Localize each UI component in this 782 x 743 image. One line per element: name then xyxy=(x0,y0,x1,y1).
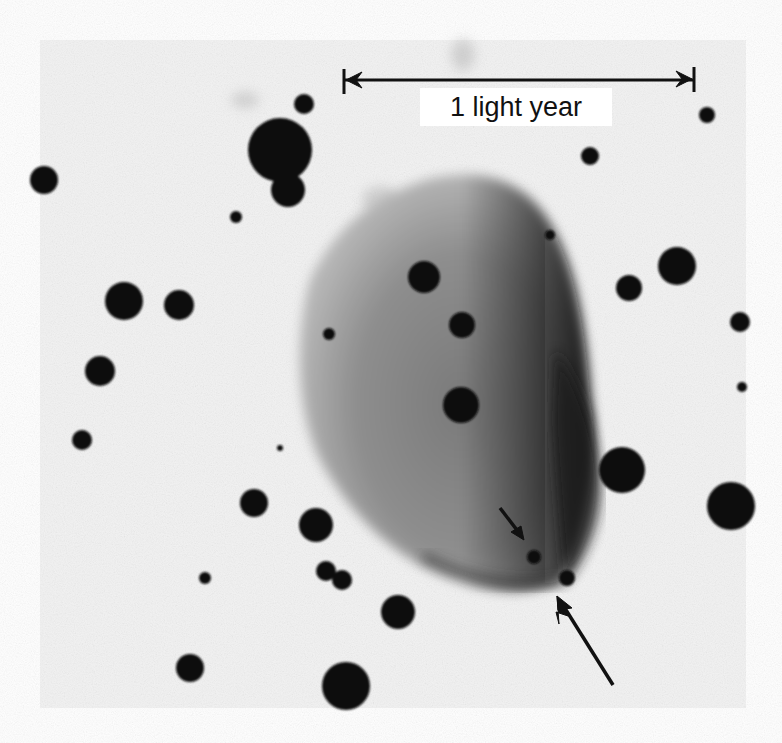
star xyxy=(199,572,211,584)
star xyxy=(707,482,755,530)
star xyxy=(443,387,479,423)
star xyxy=(730,312,750,332)
star xyxy=(30,166,58,194)
star xyxy=(332,570,352,590)
star xyxy=(240,489,268,517)
star xyxy=(599,447,645,493)
star xyxy=(699,107,715,123)
astronomical-plate xyxy=(0,0,782,743)
star xyxy=(449,312,475,338)
star xyxy=(581,147,599,165)
star xyxy=(164,290,194,320)
star xyxy=(559,570,575,586)
star xyxy=(323,328,335,340)
star xyxy=(408,261,440,293)
star xyxy=(545,230,555,240)
star xyxy=(85,356,115,386)
star xyxy=(658,247,696,285)
star xyxy=(322,662,370,710)
star xyxy=(381,595,415,629)
star xyxy=(248,118,312,182)
scale-bar-label: 1 light year xyxy=(420,88,612,126)
star xyxy=(294,94,314,114)
star xyxy=(737,382,747,392)
star xyxy=(176,654,204,682)
star xyxy=(72,430,92,450)
star xyxy=(527,550,541,564)
star xyxy=(105,282,143,320)
star xyxy=(271,173,305,207)
star xyxy=(299,508,333,542)
star xyxy=(277,445,283,451)
star xyxy=(230,211,242,223)
star xyxy=(616,275,642,301)
